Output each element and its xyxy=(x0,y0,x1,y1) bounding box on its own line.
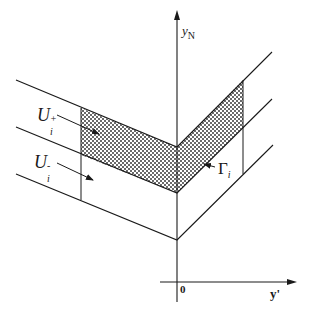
lower-region-label-sup: - xyxy=(47,161,50,171)
origin-label: 0 xyxy=(180,284,186,295)
interface-label-main: Γ xyxy=(218,159,228,178)
interface-arrow xyxy=(204,164,215,167)
lower-region-label-sub: i xyxy=(47,174,50,184)
upper-region-label: U+i xyxy=(37,106,56,124)
horizontal-axis-label: y' xyxy=(270,287,280,300)
lower-region-label-main: U xyxy=(34,152,47,172)
interface-label-sub: i xyxy=(228,169,231,180)
lower-region-arrow xyxy=(57,163,93,180)
upper-region-label-main: U xyxy=(37,105,50,125)
upper-region-label-sup: + xyxy=(50,114,57,124)
upper-region-label-sub: i xyxy=(50,127,53,137)
lower-region-label: U-i xyxy=(34,153,53,171)
vertical-axis-label-sub: N xyxy=(188,30,195,41)
vertical-axis-label: yN xyxy=(182,24,195,41)
interface-label: Γi xyxy=(218,160,231,180)
